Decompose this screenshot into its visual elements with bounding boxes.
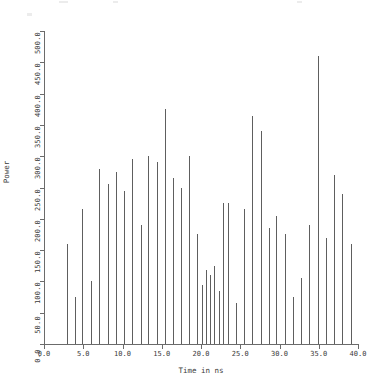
scan-artifact <box>27 13 32 16</box>
data-stem <box>82 209 83 344</box>
x-tick-mark <box>240 345 241 349</box>
data-stem <box>236 303 237 344</box>
x-tick-mark <box>83 345 84 349</box>
data-stem <box>318 56 319 344</box>
data-stem <box>157 162 158 344</box>
x-tick-mark <box>358 345 359 349</box>
x-tick-mark <box>319 345 320 349</box>
x-tick-label: 20.0 <box>193 350 210 358</box>
data-stem <box>334 175 335 344</box>
plot-area <box>44 31 358 344</box>
scan-artifact <box>113 1 118 3</box>
x-axis-title: Time in ns <box>178 366 223 375</box>
data-stem <box>214 266 215 344</box>
x-tick-label: 10.0 <box>114 350 131 358</box>
data-stem <box>342 194 343 344</box>
y-tick-label: 50.0 <box>34 313 42 337</box>
x-tick-label: 0.0 <box>38 350 51 358</box>
x-tick-label: 30.0 <box>271 350 288 358</box>
data-stem <box>148 156 149 344</box>
data-stem <box>252 116 253 344</box>
x-tick-label: 35.0 <box>310 350 327 358</box>
data-stem <box>210 275 211 344</box>
data-stem <box>285 234 286 344</box>
x-tick-mark <box>280 345 281 349</box>
data-stem <box>276 216 277 344</box>
data-stem <box>301 278 302 344</box>
data-stem <box>91 281 92 344</box>
x-tick-label: 15.0 <box>153 350 170 358</box>
y-axis-title: Power <box>2 161 11 184</box>
x-tick-label: 40.0 <box>350 350 367 358</box>
data-stem <box>219 291 220 344</box>
data-stem <box>309 225 310 344</box>
data-stem <box>293 297 294 344</box>
x-tick-label: 25.0 <box>232 350 249 358</box>
x-tick-mark <box>123 345 124 349</box>
y-tick-label: 500.0 <box>34 31 42 55</box>
chart-container: 0.050.0100.0150.0200.0250.0300.0350.0400… <box>0 0 378 383</box>
y-tick-label: 300.0 <box>34 156 42 180</box>
data-stem <box>202 285 203 344</box>
y-tick-label: 350.0 <box>34 125 42 149</box>
data-stem <box>269 228 270 344</box>
x-tick-mark <box>44 345 45 349</box>
data-stem <box>326 238 327 344</box>
y-tick-label: 100.0 <box>34 281 42 305</box>
scan-artifact <box>297 1 302 3</box>
data-stem <box>173 178 174 344</box>
data-stem <box>351 244 352 344</box>
y-tick-label: 150.0 <box>34 250 42 274</box>
data-stem <box>228 203 229 344</box>
data-stem <box>116 172 117 344</box>
data-stem <box>244 209 245 344</box>
y-tick-label: 400.0 <box>34 94 42 118</box>
data-stem <box>132 159 133 344</box>
data-stem <box>197 234 198 344</box>
x-tick-mark <box>162 345 163 349</box>
data-stem <box>75 297 76 344</box>
data-stem <box>141 225 142 344</box>
y-tick-label: 450.0 <box>34 62 42 86</box>
data-stem <box>189 156 190 344</box>
x-tick-label: 5.0 <box>77 350 90 358</box>
data-stem <box>223 203 224 344</box>
scan-artifact <box>59 1 68 3</box>
data-stem <box>108 184 109 344</box>
data-stem <box>165 109 166 344</box>
data-stem <box>124 191 125 344</box>
y-tick-label: 250.0 <box>34 188 42 212</box>
y-tick-label: 200.0 <box>34 219 42 243</box>
data-stem <box>261 131 262 344</box>
data-stem <box>67 244 68 344</box>
data-stem <box>206 270 207 344</box>
data-stem <box>99 169 100 344</box>
data-stem <box>181 188 182 345</box>
x-tick-mark <box>201 345 202 349</box>
